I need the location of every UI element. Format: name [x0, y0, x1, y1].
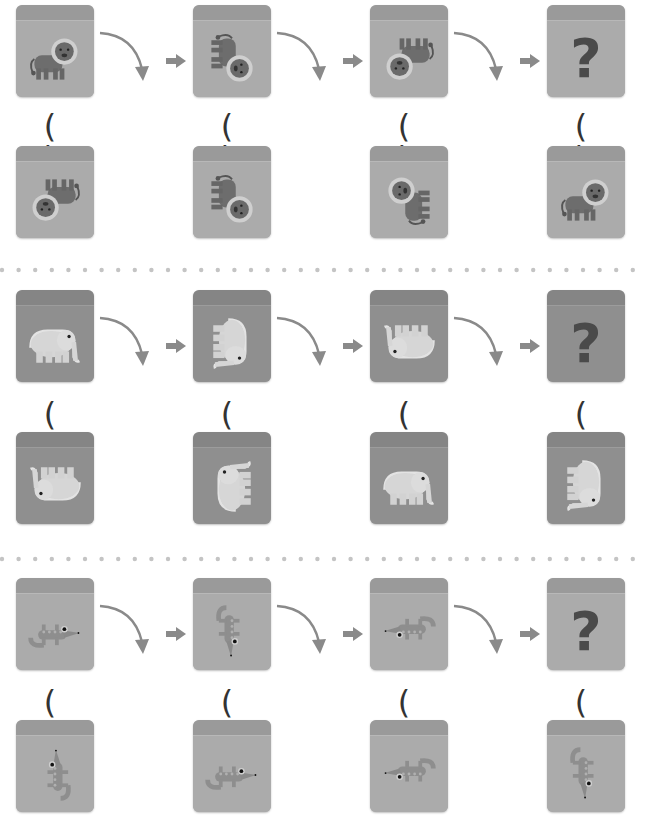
elephant-icon [379, 315, 439, 373]
question-mark-icon: ? [570, 317, 601, 371]
cube-top-face [370, 290, 448, 306]
sequence-cube-3 [370, 290, 448, 382]
sequence-cube-4: ? [547, 5, 625, 97]
crocodile-icon [556, 745, 616, 803]
lion-icon [25, 171, 85, 229]
cube-top-face [370, 720, 448, 736]
cube-front-face [370, 448, 448, 524]
option-cube-4 [547, 432, 625, 524]
cube-front-face [16, 448, 94, 524]
cube-front-face [370, 736, 448, 812]
sequence-cube-2 [193, 578, 271, 670]
cube-top-face [547, 290, 625, 306]
option-cube-1 [16, 146, 94, 238]
cube-front-face: ? [547, 21, 625, 97]
cube-top-face [193, 720, 271, 736]
option-cube-1 [16, 720, 94, 812]
dotted-divider [0, 548, 647, 556]
sequence-cube-1 [16, 5, 94, 97]
cube-top-face [193, 146, 271, 162]
cube-top-face [16, 5, 94, 21]
option-cube-3 [370, 720, 448, 812]
rotate-clockwise-arrow-icon [452, 598, 512, 668]
sequence-cube-1 [16, 578, 94, 670]
option-cube-2 [193, 432, 271, 524]
cube-front-face [547, 162, 625, 238]
rotate-clockwise-arrow-icon [275, 598, 335, 668]
cube-front-face [370, 162, 448, 238]
rotate-clockwise-arrow-icon [98, 25, 158, 95]
cube-top-face [16, 146, 94, 162]
next-step-arrow-icon [520, 626, 540, 640]
cube-front-face [16, 306, 94, 382]
cube-front-face [547, 736, 625, 812]
option-cube-2 [193, 720, 271, 812]
cube-top-face [547, 578, 625, 594]
cube-front-face [193, 162, 271, 238]
rotate-clockwise-arrow-icon [452, 25, 512, 95]
rotate-clockwise-arrow-icon [452, 310, 512, 380]
cube-top-face [193, 578, 271, 594]
cube-top-face [16, 720, 94, 736]
cube-top-face [193, 432, 271, 448]
cube-front-face [370, 594, 448, 670]
sequence-cube-4: ? [547, 290, 625, 382]
cube-front-face [193, 448, 271, 524]
elephant-icon [556, 457, 616, 515]
cube-top-face [370, 578, 448, 594]
cube-front-face [16, 594, 94, 670]
next-step-arrow-icon [520, 53, 540, 67]
sequence-cube-3 [370, 578, 448, 670]
sequence-cube-3 [370, 5, 448, 97]
next-step-arrow-icon [166, 53, 186, 67]
cube-top-face [547, 146, 625, 162]
option-cube-1 [16, 432, 94, 524]
rotate-clockwise-arrow-icon [98, 598, 158, 668]
cube-front-face [193, 736, 271, 812]
cube-top-face [370, 432, 448, 448]
elephant-icon [379, 457, 439, 515]
sequence-cube-4: ? [547, 578, 625, 670]
cube-top-face [547, 5, 625, 21]
rotate-clockwise-arrow-icon [98, 310, 158, 380]
rotate-clockwise-arrow-icon [275, 310, 335, 380]
question-mark-icon: ? [570, 32, 601, 86]
cube-top-face [16, 578, 94, 594]
crocodile-icon [202, 745, 262, 803]
cube-front-face: ? [547, 306, 625, 382]
cube-top-face [193, 5, 271, 21]
cube-front-face [193, 21, 271, 97]
cube-top-face [547, 432, 625, 448]
cube-front-face [370, 21, 448, 97]
lion-icon [25, 30, 85, 88]
lion-icon [556, 171, 616, 229]
cube-top-face [370, 5, 448, 21]
cube-front-face [16, 21, 94, 97]
elephant-icon [25, 457, 85, 515]
next-step-arrow-icon [343, 53, 363, 67]
elephant-icon [202, 315, 262, 373]
elephant-icon [25, 315, 85, 373]
next-step-arrow-icon [343, 338, 363, 352]
crocodile-icon [379, 745, 439, 803]
rotate-clockwise-arrow-icon [275, 25, 335, 95]
crocodile-icon [202, 603, 262, 661]
next-step-arrow-icon [166, 338, 186, 352]
option-cube-2 [193, 146, 271, 238]
next-step-arrow-icon [166, 626, 186, 640]
option-cube-3 [370, 432, 448, 524]
cube-front-face [16, 162, 94, 238]
cube-front-face [193, 594, 271, 670]
cube-front-face [370, 306, 448, 382]
crocodile-icon [25, 603, 85, 661]
lion-icon [379, 171, 439, 229]
crocodile-icon [379, 603, 439, 661]
lion-icon [202, 30, 262, 88]
option-cube-3 [370, 146, 448, 238]
dotted-divider [0, 259, 647, 267]
cube-front-face: ? [547, 594, 625, 670]
cube-front-face [547, 448, 625, 524]
next-step-arrow-icon [520, 338, 540, 352]
next-step-arrow-icon [343, 626, 363, 640]
cube-front-face [16, 736, 94, 812]
